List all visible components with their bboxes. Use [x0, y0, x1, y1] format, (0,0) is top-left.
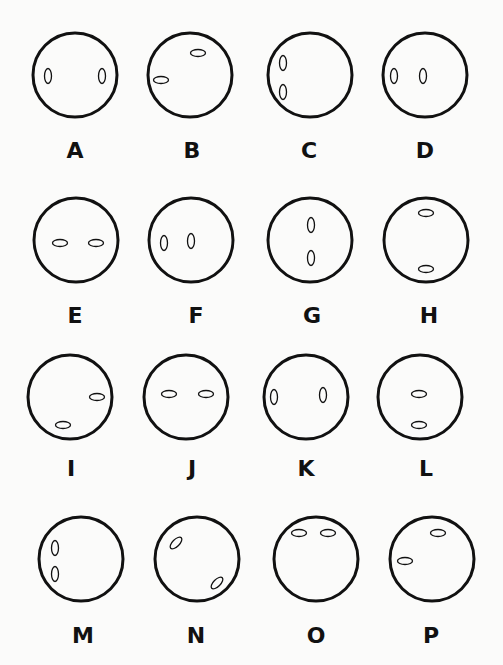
option-label: G [303, 303, 321, 328]
circle-outline [149, 198, 233, 282]
small-ellipse-1 [431, 530, 446, 537]
option-c: C [268, 33, 352, 163]
small-ellipse-1 [292, 530, 307, 537]
option-a: A [33, 33, 117, 163]
circle-outline [390, 517, 474, 601]
circle-outline [34, 198, 118, 282]
small-ellipse-1 [168, 535, 184, 551]
option-label: L [419, 456, 433, 481]
small-ellipse-1 [45, 69, 52, 84]
option-k: K [264, 355, 348, 481]
small-ellipse-2 [398, 558, 413, 565]
small-ellipse-2 [320, 388, 327, 403]
option-n: N [155, 517, 239, 648]
option-g: G [268, 198, 352, 328]
small-ellipse-2 [209, 575, 225, 591]
small-ellipse-2 [188, 234, 195, 249]
option-label: N [187, 623, 205, 648]
option-b: B [148, 33, 232, 163]
small-ellipse-2 [321, 530, 336, 537]
option-label: M [72, 623, 94, 648]
option-label: H [420, 303, 438, 328]
small-ellipse-1 [391, 69, 398, 84]
small-ellipse-2 [199, 391, 214, 398]
option-f: F [149, 198, 233, 328]
small-ellipse-2 [89, 240, 104, 247]
option-label: I [67, 456, 75, 481]
small-ellipse-2 [52, 567, 59, 582]
circle-outline [384, 198, 468, 282]
option-label: B [184, 138, 201, 163]
option-l: L [378, 355, 462, 481]
circle-outline [268, 198, 352, 282]
small-ellipse-1 [419, 210, 434, 217]
option-label: A [66, 138, 83, 163]
option-o: O [274, 517, 358, 648]
option-d: D [383, 33, 467, 163]
option-label: F [188, 303, 203, 328]
small-ellipse-1 [52, 541, 59, 556]
option-label: K [297, 456, 315, 481]
small-ellipse-2 [154, 77, 169, 84]
circle-outline [383, 33, 467, 117]
circle-outline [274, 517, 358, 601]
circle-options-diagram: ABCDEFGHIJKLMNOP [0, 0, 503, 665]
option-i: I [28, 355, 112, 481]
small-ellipse-1 [271, 390, 278, 405]
small-ellipse-2 [280, 85, 287, 100]
option-label: O [307, 623, 326, 648]
option-h: H [384, 198, 468, 328]
small-ellipse-2 [56, 422, 71, 429]
circle-outline [33, 33, 117, 117]
small-ellipse-2 [412, 422, 427, 429]
option-label: E [67, 303, 82, 328]
small-ellipse-1 [191, 50, 206, 57]
option-label: J [186, 456, 196, 481]
small-ellipse-1 [162, 391, 177, 398]
small-ellipse-1 [308, 218, 315, 233]
small-ellipse-2 [420, 69, 427, 84]
option-e: E [34, 198, 118, 328]
option-j: J [144, 355, 228, 481]
small-ellipse-2 [308, 251, 315, 266]
small-ellipse-1 [53, 240, 68, 247]
option-label: D [416, 138, 434, 163]
circle-outline [264, 355, 348, 439]
option-label: P [423, 623, 439, 648]
small-ellipse-1 [412, 391, 427, 398]
small-ellipse-2 [419, 266, 434, 273]
options-grid: ABCDEFGHIJKLMNOP [28, 33, 474, 648]
circle-outline [144, 355, 228, 439]
small-ellipse-1 [161, 236, 168, 251]
circle-outline [39, 517, 123, 601]
option-m: M [39, 517, 123, 648]
small-ellipse-2 [99, 69, 106, 84]
small-ellipse-1 [280, 56, 287, 71]
circle-outline [148, 33, 232, 117]
small-ellipse-1 [90, 394, 105, 401]
circle-outline [268, 33, 352, 117]
option-label: C [301, 138, 317, 163]
circle-outline [155, 517, 239, 601]
option-p: P [390, 517, 474, 648]
